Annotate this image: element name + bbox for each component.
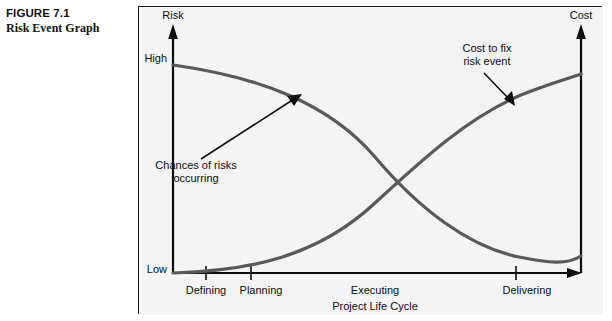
- x-tick-label-executing: Executing: [351, 284, 399, 296]
- x-axis-title: Project Life Cycle: [332, 300, 418, 312]
- cost-axis-label: Cost: [570, 9, 593, 21]
- figure-caption: FIGURE 7.1 Risk Event Graph: [6, 6, 132, 36]
- y-tick-label-high: High: [144, 52, 167, 64]
- x-tick-label-planning: Planning: [240, 284, 283, 296]
- annotation-cost-line2: risk event: [463, 55, 510, 67]
- x-tick-label-delivering: Delivering: [503, 284, 552, 296]
- figure-title: Risk Event Graph: [6, 21, 132, 36]
- risk-event-graph-svg: Risk Cost High Low Defining Planning Exe…: [139, 7, 603, 315]
- risk-event-graph-figure: Risk Cost High Low Defining Planning Exe…: [138, 6, 602, 314]
- x-tick-label-defining: Defining: [186, 284, 226, 296]
- annotation-risk-line1: Chances of risks: [155, 159, 237, 171]
- figure-number: FIGURE 7.1: [6, 6, 132, 20]
- y-tick-label-low: Low: [147, 263, 167, 275]
- annotation-risk-line2: occurring: [173, 172, 218, 184]
- annotation-cost-line1: Cost to fix: [463, 42, 512, 54]
- risk-axis-label: Risk: [162, 9, 184, 21]
